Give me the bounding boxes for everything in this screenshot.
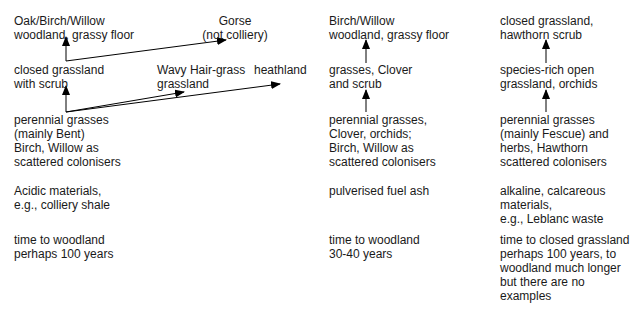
- col1-bottom-stage: perennial grasses (mainly Bent) Birch, W…: [14, 113, 121, 169]
- col1-top-stage: Oak/Birch/Willow woodland, grassy floor: [14, 14, 134, 42]
- col1-branch-gorse: Gorse (not colliery): [190, 14, 280, 42]
- col1-branch-heathland: heathland: [254, 63, 307, 77]
- col2-middle-stage: grasses, Clover and scrub: [329, 63, 412, 91]
- col3-bottom-stage: perennial grasses (mainly Fescue) and he…: [500, 113, 609, 169]
- col2-top-stage: Birch/Willow woodland, grassy floor: [329, 14, 449, 42]
- col3-top-stage: closed grassland, hawthorn scrub: [500, 14, 593, 42]
- col2-substrate: pulverised fuel ash: [329, 184, 429, 198]
- col3-middle-stage: species-rich open grassland, orchids: [500, 63, 597, 91]
- col3-time: time to closed grassland perhaps 100 yea…: [500, 233, 629, 303]
- col1-middle-stage: closed grassland with scrub: [14, 63, 104, 91]
- col2-time: time to woodland 30-40 years: [329, 233, 420, 261]
- col1-substrate: Acidic materials, e.g., colliery shale: [14, 184, 110, 212]
- col3-substrate: alkaline, calcareous materials, e.g., Le…: [500, 184, 605, 226]
- arrow-closed-to-gorse: [66, 40, 226, 61]
- col1-time: time to woodland perhaps 100 years: [14, 233, 113, 261]
- col2-bottom-stage: perennial grasses, Clover, orchids; Birc…: [329, 113, 436, 169]
- col1-branch-wavy-hair-grass: Wavy Hair-grass grassland: [157, 63, 245, 91]
- arrow-perennial-to-wavy: [66, 92, 184, 112]
